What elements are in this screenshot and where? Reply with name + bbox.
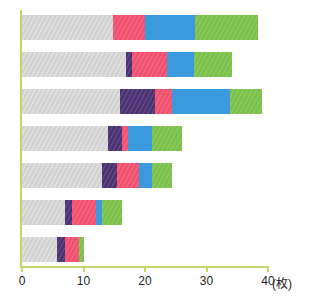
bar-segment-blue <box>167 52 194 77</box>
bar-row <box>22 200 122 225</box>
bar-segment-purple <box>108 126 122 151</box>
bar-segment-pink <box>113 15 145 40</box>
bar-segment-pink <box>132 52 167 77</box>
bar-segment-gray <box>22 52 126 77</box>
bar-row <box>22 126 182 151</box>
bar-segment-green <box>194 52 232 77</box>
bar-segment-pink <box>72 200 96 225</box>
bar-segment-gray <box>22 237 57 262</box>
bar-row <box>22 163 172 188</box>
bar-row <box>22 237 84 262</box>
bar-segment-blue <box>172 89 230 114</box>
bar-segment-purple <box>65 200 72 225</box>
bar-segment-gray <box>22 89 120 114</box>
bar-row <box>22 15 258 40</box>
bar-segment-blue <box>139 163 151 188</box>
bar-segment-green <box>79 237 84 262</box>
bar-segment-blue <box>128 126 152 151</box>
bar-segment-pink <box>155 89 172 114</box>
plot-area <box>0 0 312 308</box>
bar-segment-green <box>152 126 182 151</box>
bar-segment-green <box>230 89 262 114</box>
bar-segment-green <box>102 200 122 225</box>
bar-segment-blue <box>145 15 195 40</box>
bar-segment-purple <box>120 89 155 114</box>
bar-segment-purple <box>102 163 117 188</box>
bar-segment-pink <box>117 163 140 188</box>
bar-segment-purple <box>57 237 65 262</box>
stacked-bar-chart: 010203040 (枚) <box>0 0 312 308</box>
bar-segment-pink <box>65 237 79 262</box>
bar-segment-green <box>152 163 172 188</box>
bar-segment-gray <box>22 200 65 225</box>
bar-row <box>22 89 262 114</box>
bar-segment-gray <box>22 163 102 188</box>
bar-segment-gray <box>22 126 108 151</box>
bar-segment-green <box>195 15 258 40</box>
bar-row <box>22 52 232 77</box>
bar-segment-gray <box>22 15 113 40</box>
